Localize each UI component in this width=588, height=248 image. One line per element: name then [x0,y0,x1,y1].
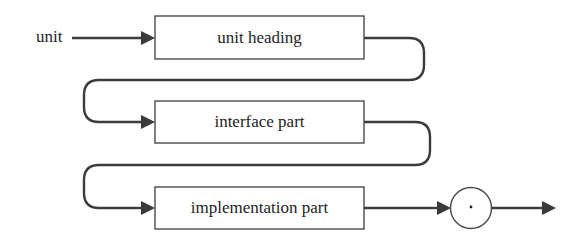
entry-label: unit [36,27,63,46]
implementation-part-box: implementation part [155,187,364,229]
unit-heading-label: unit heading [217,28,302,47]
interface-part-box: interface part [155,101,364,143]
terminal-period-node [451,188,492,229]
interface-part-label: interface part [214,112,304,131]
implementation-part-label: implementation part [191,198,329,217]
period-dot-icon [470,206,473,209]
exit-arrow [492,201,557,215]
connector-3 [364,201,451,215]
syntax-diagram: unit unit heading interface part impleme… [0,0,588,248]
entry-arrow [72,31,155,45]
unit-heading-box: unit heading [155,16,364,59]
